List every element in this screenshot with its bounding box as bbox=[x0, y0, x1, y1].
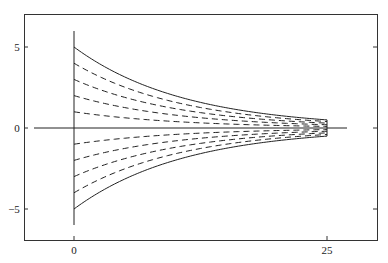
curve-0 bbox=[74, 47, 327, 120]
curve-3 bbox=[74, 96, 327, 125]
curve-6 bbox=[74, 131, 327, 160]
chart: 0 25 5 0 −5 bbox=[0, 0, 388, 263]
y-tick-minus5: −5 bbox=[8, 203, 20, 215]
y-tick-0: 0 bbox=[14, 122, 20, 134]
x-axis-ticks: 0 25 bbox=[71, 236, 333, 256]
x-tick-0: 0 bbox=[71, 244, 77, 256]
x-tick-25: 25 bbox=[322, 244, 334, 256]
curve-9 bbox=[74, 136, 327, 209]
y-tick-5: 5 bbox=[14, 41, 20, 53]
